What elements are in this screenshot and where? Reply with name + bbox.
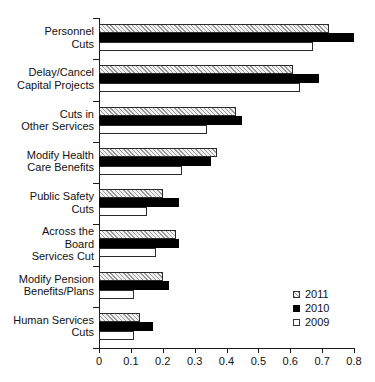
bar-2010 xyxy=(99,157,211,166)
bar-2011 xyxy=(99,65,293,74)
x-tick-label: 0.4 xyxy=(212,355,242,367)
category-label: Public Safety Cuts xyxy=(0,190,94,215)
x-tick xyxy=(354,348,355,353)
x-tick xyxy=(322,348,323,353)
legend-item: 2010 xyxy=(293,302,329,315)
x-tick-label: 0.5 xyxy=(243,355,273,367)
bar-2009 xyxy=(99,290,134,299)
x-tick-label: 0.6 xyxy=(275,355,305,367)
bar-2010 xyxy=(99,33,354,42)
legend-item: 2009 xyxy=(293,316,329,329)
bar-2009 xyxy=(99,207,147,216)
bar-2009 xyxy=(99,83,300,92)
bar-2010 xyxy=(99,74,319,83)
category-label: Modify Pension Benefits/Plans xyxy=(0,273,94,298)
x-tick xyxy=(131,348,132,353)
white-square-icon xyxy=(293,319,300,326)
bar-2010 xyxy=(99,281,169,290)
x-tick xyxy=(290,348,291,353)
bar-2010 xyxy=(99,198,179,207)
bar-2011 xyxy=(99,189,163,198)
legend-item: 2011 xyxy=(293,288,329,301)
y-tick xyxy=(93,307,99,308)
x-tick xyxy=(258,348,259,353)
legend: 201120102009 xyxy=(293,288,329,330)
y-tick xyxy=(93,18,99,19)
x-tick xyxy=(163,348,164,353)
x-tick xyxy=(195,348,196,353)
x-tick-label: 0.8 xyxy=(339,355,369,367)
bar-2011 xyxy=(99,272,163,281)
y-tick xyxy=(93,266,99,267)
category-label: Cuts in Other Services xyxy=(0,108,94,133)
x-tick xyxy=(99,348,100,353)
bar-2011 xyxy=(99,24,329,33)
x-tick-label: 0.2 xyxy=(148,355,178,367)
category-label: Human Services Cuts xyxy=(0,314,94,339)
bar-2010 xyxy=(99,116,242,125)
y-tick xyxy=(93,183,99,184)
bar-2009 xyxy=(99,42,313,51)
bar-2010 xyxy=(99,239,179,248)
category-label: Personnel Cuts xyxy=(0,25,94,50)
bar-chart: 00.10.20.30.40.50.60.70.8 Personnel Cuts… xyxy=(0,0,375,382)
x-tick-label: 0 xyxy=(84,355,114,367)
black-square-icon xyxy=(293,305,300,312)
legend-label: 2009 xyxy=(305,316,329,329)
x-tick xyxy=(227,348,228,353)
bar-2011 xyxy=(99,107,236,116)
legend-label: 2011 xyxy=(305,288,329,301)
bar-2011 xyxy=(99,313,140,322)
bar-2009 xyxy=(99,166,182,175)
bar-2009 xyxy=(99,248,156,257)
y-tick xyxy=(93,59,99,60)
legend-label: 2010 xyxy=(305,302,329,315)
y-tick xyxy=(93,101,99,102)
category-label: Across the Board Services Cut xyxy=(0,225,94,263)
x-tick-label: 0.1 xyxy=(116,355,146,367)
y-tick xyxy=(93,142,99,143)
hatched-square-icon xyxy=(293,291,300,298)
bar-2011 xyxy=(99,230,176,239)
category-label: Modify Health Care Benefits xyxy=(0,149,94,174)
x-tick-label: 0.7 xyxy=(307,355,337,367)
bar-2009 xyxy=(99,125,207,134)
category-label: Delay/Cancel Capital Projects xyxy=(0,66,94,91)
bar-2009 xyxy=(99,331,134,340)
bar-2011 xyxy=(99,148,217,157)
bar-2010 xyxy=(99,322,153,331)
x-tick-label: 0.3 xyxy=(180,355,210,367)
